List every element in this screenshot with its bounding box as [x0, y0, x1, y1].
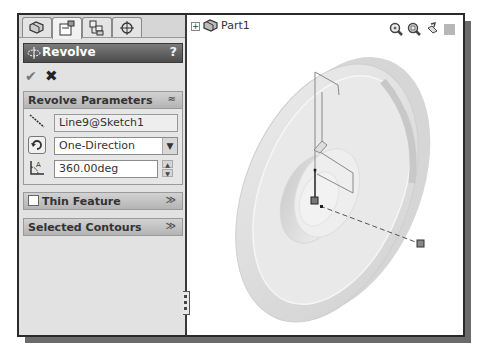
part-icon [203, 19, 219, 32]
selected-contours-header[interactable]: Selected Contours ≫ [24, 219, 182, 235]
tab-dimxpert-manager[interactable] [112, 17, 142, 37]
tab-feature-manager[interactable] [22, 17, 52, 37]
thin-feature-group: Thin Feature ≫ [23, 192, 183, 210]
thin-feature-checkbox[interactable] [28, 195, 39, 206]
solidworks-window: Revolve ? ✔ ✖ Revolve Parameters ≈ Line9… [17, 13, 465, 337]
ok-button[interactable]: ✔ [25, 68, 37, 84]
help-button[interactable]: ? [169, 44, 177, 59]
angle-spinner[interactable]: ▲ ▼ [162, 160, 173, 178]
collapse-icon[interactable]: ≈ [168, 93, 176, 104]
reverse-direction-button[interactable] [28, 136, 46, 154]
axis-of-revolution-field[interactable]: Line9@Sketch1 [54, 114, 178, 132]
property-manager-header: Revolve ? [23, 43, 183, 63]
property-manager-panel: Revolve ? ✔ ✖ Revolve Parameters ≈ Line9… [19, 15, 187, 335]
revolve-icon [27, 47, 41, 59]
tab-configuration-manager[interactable] [82, 17, 112, 37]
property-manager-icon [58, 20, 76, 36]
revolve-parameters-group: Revolve Parameters ≈ Line9@Sketch1 One-D… [23, 91, 183, 185]
svg-text:A: A [36, 161, 41, 169]
rotate-direction-icon [29, 137, 45, 153]
feature-tree-icon [28, 20, 46, 35]
configuration-icon [88, 20, 106, 36]
tab-property-manager[interactable] [52, 17, 82, 39]
angle-input[interactable]: 360.00deg [54, 160, 158, 178]
expand-tree-button[interactable]: + [191, 22, 200, 31]
spin-up-icon[interactable]: ▲ [162, 160, 173, 168]
selected-contours-group: Selected Contours ≫ [23, 218, 183, 236]
expand-icon[interactable]: ≫ [166, 194, 176, 205]
spin-down-icon[interactable]: ▼ [162, 169, 173, 177]
axis-endpoint-handle[interactable] [311, 197, 318, 204]
chevron-down-icon[interactable]: ▼ [162, 138, 177, 154]
cancel-button[interactable]: ✖ [45, 67, 58, 85]
revolve-type-dropdown[interactable]: One-Direction ▼ [54, 137, 178, 155]
expand-icon[interactable]: ≫ [166, 220, 176, 231]
page-title: Revolve [42, 45, 96, 59]
angle-icon: A [28, 159, 46, 177]
centerline-endpoint-handle[interactable] [417, 240, 424, 247]
revolve-preview-model [187, 33, 463, 335]
revolve-parameters-header[interactable]: Revolve Parameters ≈ [24, 92, 182, 109]
manager-tabs [19, 15, 185, 38]
axis-line-icon [29, 114, 45, 128]
thin-feature-header[interactable]: Thin Feature ≫ [24, 193, 182, 209]
crosshair-icon [118, 20, 136, 36]
tree-root-part[interactable]: Part1 [221, 19, 250, 32]
